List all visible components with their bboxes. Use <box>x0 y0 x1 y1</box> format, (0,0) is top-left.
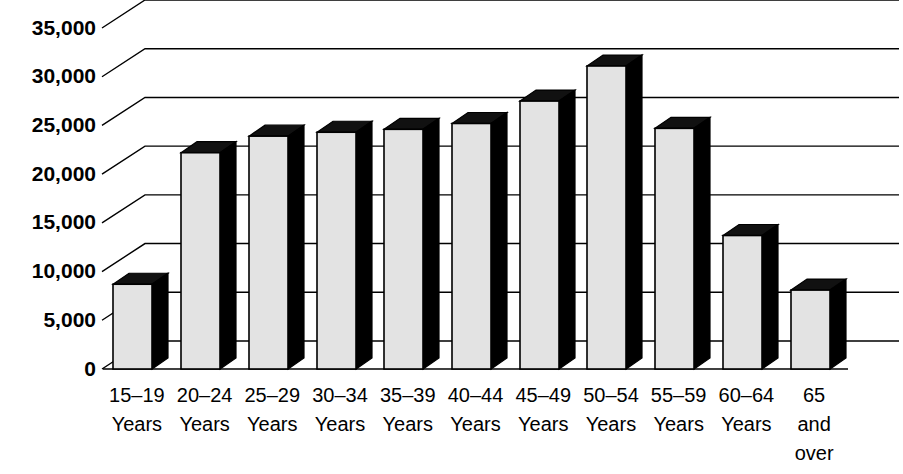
bar-front-face <box>249 136 288 369</box>
bar-front-face <box>791 290 830 369</box>
bar-side-face <box>356 121 372 369</box>
y-axis-tick-label: 0 <box>84 357 96 380</box>
bar-side-face <box>694 117 710 369</box>
bar-7 <box>587 55 642 369</box>
bar-6 <box>520 90 575 369</box>
y-axis-tick-label: 15,000 <box>32 210 96 233</box>
x-axis-tick-label: Years <box>653 413 703 435</box>
bar-4 <box>384 118 439 369</box>
x-axis-tick-label: 60–64 <box>719 384 775 406</box>
bar-3 <box>317 121 372 369</box>
x-axis-tick-label: Years <box>247 413 297 435</box>
gridline-30000 <box>102 49 899 77</box>
y-axis-tick-label: 5,000 <box>43 308 96 331</box>
y-axis-labels: 05,00010,00015,00020,00025,00030,00035,0… <box>32 16 96 380</box>
bar-side-face <box>220 142 236 369</box>
bar-2 <box>249 125 304 369</box>
x-axis-tick-label: and <box>797 413 830 435</box>
x-axis-tick-label: 20–24 <box>177 384 233 406</box>
bars <box>113 55 846 369</box>
x-axis-tick-label: Years <box>721 413 771 435</box>
x-axis-tick-label: 40–44 <box>448 384 504 406</box>
x-axis-tick-label: 25–29 <box>245 384 301 406</box>
gridline-35000 <box>102 0 899 28</box>
x-axis-tick-label: 45–49 <box>515 384 571 406</box>
bar-8 <box>655 117 710 369</box>
bar-front-face <box>723 236 762 369</box>
y-axis-tick-label: 30,000 <box>32 64 96 87</box>
x-axis-tick-label: Years <box>586 413 636 435</box>
y-axis-tick-label: 20,000 <box>32 162 96 185</box>
bar-5 <box>452 112 507 369</box>
bar-side-face <box>491 112 507 369</box>
x-axis-tick-label: over <box>795 442 834 464</box>
x-axis-tick-label: Years <box>518 413 568 435</box>
bar-10 <box>791 279 846 369</box>
bar-front-face <box>655 128 694 369</box>
x-axis-tick-label: Years <box>179 413 229 435</box>
x-axis-tick-label: Years <box>383 413 433 435</box>
bar-side-face <box>423 118 439 369</box>
bar-side-face <box>626 55 642 369</box>
bar-side-face <box>152 273 168 369</box>
x-axis-tick-label: 15–19 <box>109 384 165 406</box>
x-axis-labels: 15–19Years20–24Years25–29Years30–34Years… <box>109 384 834 464</box>
bar-side-face <box>288 125 304 369</box>
y-axis-tick-label: 25,000 <box>32 113 96 136</box>
chart-canvas: 05,00010,00015,00020,00025,00030,00035,0… <box>0 0 903 474</box>
bar-chart: 05,00010,00015,00020,00025,00030,00035,0… <box>0 0 903 474</box>
bar-front-face <box>452 123 491 369</box>
x-axis-tick-label: Years <box>112 413 162 435</box>
bar-side-face <box>830 279 846 369</box>
bar-front-face <box>317 132 356 369</box>
x-axis-tick-label: Years <box>315 413 365 435</box>
bar-front-face <box>520 101 559 369</box>
bar-front-face <box>587 66 626 369</box>
y-axis-tick-label: 35,000 <box>32 16 96 39</box>
bar-front-face <box>181 153 220 369</box>
x-axis-tick-label: 65 <box>803 384 825 406</box>
y-axis-tick-label: 10,000 <box>32 259 96 282</box>
x-axis-tick-label: 55–59 <box>651 384 707 406</box>
bar-1 <box>181 142 236 369</box>
x-axis-tick-label: 30–34 <box>312 384 368 406</box>
bar-front-face <box>113 284 152 369</box>
bar-0 <box>113 273 168 369</box>
x-axis-tick-label: 50–54 <box>583 384 639 406</box>
bar-9 <box>723 225 778 369</box>
x-axis-tick-label: 35–39 <box>380 384 436 406</box>
x-axis-tick-label: Years <box>450 413 500 435</box>
bar-front-face <box>384 129 423 369</box>
bar-side-face <box>559 90 575 369</box>
bar-side-face <box>762 225 778 369</box>
